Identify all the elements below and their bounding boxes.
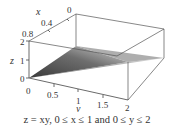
y-tick-0: 0	[26, 86, 31, 96]
z-tick-0: 0	[20, 74, 25, 84]
z-tick-1: 1	[20, 56, 25, 66]
x-tick-0: 0	[67, 5, 72, 15]
surface-z-equals-xy	[29, 46, 164, 78]
x-tick-0-4: 0.4	[41, 18, 53, 28]
y-tick-1-5: 1.5	[97, 100, 109, 110]
y-tick-2: 2	[125, 103, 130, 112]
x-axis-label: x	[35, 6, 41, 17]
z-tick-2: 2	[20, 37, 25, 47]
y-axis-label: y	[75, 103, 81, 112]
figure-caption: z = xy, 0 ≤ x ≤ 1 and 0 ≤ y ≤ 2	[0, 114, 174, 125]
surface-plot: 0 0.4 0.8 x 2 1 0 z 0 0.5 1 1.5 2 y	[0, 0, 174, 112]
y-tick-0-5: 0.5	[47, 90, 59, 100]
z-axis-label: z	[9, 55, 14, 66]
